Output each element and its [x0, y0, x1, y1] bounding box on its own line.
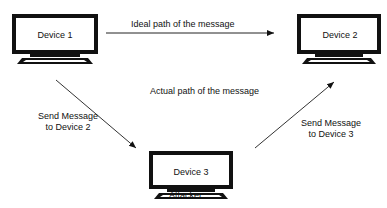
device-2-label: Device 2	[322, 30, 357, 40]
device-3-label: Device 3	[173, 167, 208, 177]
send-to-device2-label: Send Message to Device 2	[38, 111, 98, 133]
send-to-device2-line1: Send Message	[38, 111, 98, 122]
diagram-canvas: Device 1 Device 2 Device 3	[0, 0, 387, 208]
send-to-device3-line1: Send Message	[301, 118, 361, 129]
send-to-device3-label: Send Message to Device 3	[301, 118, 361, 140]
ideal-path-label: Ideal path of the message	[131, 19, 235, 30]
send-to-device3-line2: to Device 3	[301, 129, 361, 140]
device-1-label: Device 1	[37, 30, 72, 40]
device-1-monitor-icon	[14, 16, 96, 64]
device-2-monitor-icon	[299, 16, 379, 64]
attacker-label: Attacker	[169, 190, 202, 201]
send-to-device2-line2: to Device 2	[38, 122, 98, 133]
actual-path-label: Actual path of the message	[150, 86, 259, 97]
